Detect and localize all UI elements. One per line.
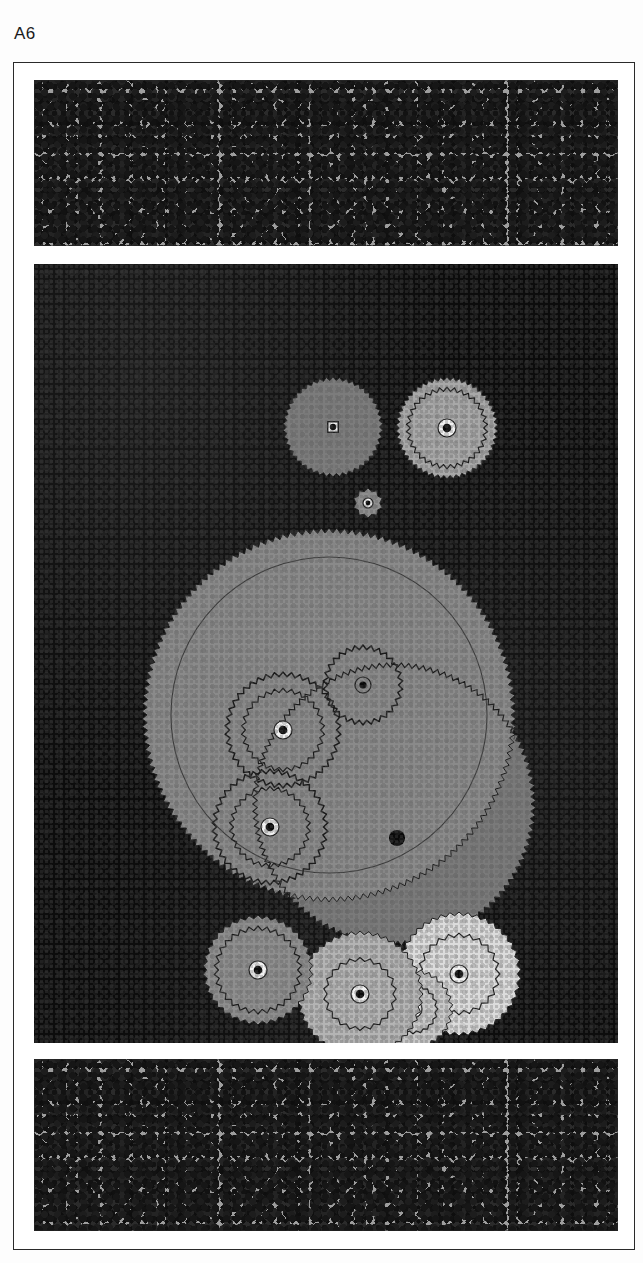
main-ring-gear-body [142, 528, 516, 902]
compound-planet-outline-hub-center [279, 726, 288, 735]
pivot-pin [389, 830, 405, 846]
plate-label: A6 [14, 24, 36, 44]
output-gear-dark-hub-center [254, 966, 263, 975]
gear-with-square-hub-hub-center [330, 424, 336, 430]
gear-assembly-svg [34, 264, 618, 1043]
plate-frame [13, 62, 635, 1250]
compound-planet-outline-hub-center [266, 823, 275, 832]
gear-assembly [34, 264, 618, 1043]
gear-with-inner-ring-hub-center [443, 424, 452, 433]
gear-with-square-hub [283, 377, 383, 477]
top-speckle-band [34, 80, 618, 246]
pinion-gear [354, 488, 383, 518]
mechanism-panel [34, 264, 618, 1043]
bottom-speckle-band [34, 1059, 618, 1231]
planet-gear-outline-hub-center [359, 681, 366, 688]
gear-with-inner-ring [396, 377, 498, 479]
pinion-gear-hub-center [366, 501, 371, 506]
output-gear-mid [297, 931, 423, 1043]
output-gear-mid-hub-center [356, 990, 365, 999]
main-ring-gear [142, 528, 516, 902]
output-gear-light-hub-center [455, 970, 464, 979]
output-gear-dark [203, 915, 313, 1025]
pivot-pin-pin [389, 830, 405, 846]
